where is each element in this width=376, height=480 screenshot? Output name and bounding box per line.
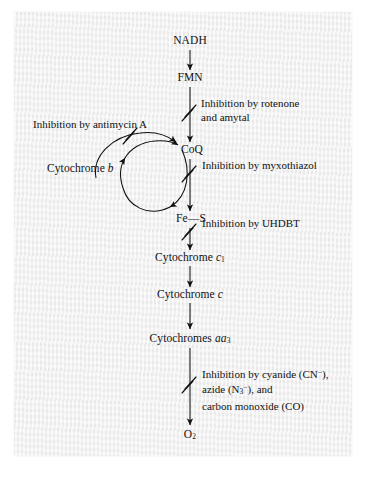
annotation-cyanide-line2: azide (N3−), and	[202, 381, 328, 399]
loop-arc-top-to-coq	[125, 141, 178, 158]
node-fmn-label: FMN	[177, 71, 202, 83]
node-cytochrome-c: Cytochrome c	[157, 288, 223, 300]
annotation-rotenone-line1: Inhibition by rotenone	[201, 96, 299, 110]
node-cytochrome-c1-word: Cytochrome	[155, 251, 213, 263]
mark-rotenone-icon	[182, 105, 196, 121]
node-cytochrome-c-italic: c	[218, 288, 223, 300]
node-cytochromes-aa3: Cytochromes aa3	[150, 332, 231, 345]
mark-uhdbt-icon	[182, 224, 196, 240]
annotation-rotenone-line2: and amytal	[201, 110, 299, 124]
mark-cyanide-icon	[182, 377, 196, 393]
annotation-cyanide-line1: Inhibition by cyanide (CN−),	[202, 366, 328, 381]
mark-myxothiazol-icon	[182, 166, 196, 182]
loop-arc-left-up	[121, 158, 125, 188]
node-nadh: NADH	[173, 34, 207, 46]
node-cytochrome-c1: Cytochrome c1	[155, 251, 225, 264]
node-cytochromes-aa3-sub: 3	[227, 336, 231, 345]
annotation-cyanide: Inhibition by cyanide (CN−), azide (N3−)…	[202, 366, 328, 413]
node-cytochrome-b: Cytochrome b	[47, 162, 114, 174]
node-nadh-label: NADH	[173, 34, 207, 46]
annotation-antimycin-line1: Inhibition by antimycin A	[33, 117, 147, 131]
node-fmn: FMN	[177, 71, 202, 83]
annotation-myxothiazol-line1: Inhibition by myxothiazol	[202, 158, 317, 172]
node-cytochrome-b-word: Cytochrome	[47, 162, 105, 174]
node-cytochrome-c-word: Cytochrome	[157, 288, 215, 300]
annotation-uhdbt-line1: Inhibition by UHDBT	[202, 216, 300, 230]
annotation-uhdbt: Inhibition by UHDBT	[202, 216, 300, 230]
node-coq: CoQ	[181, 143, 203, 155]
annotation-antimycin: Inhibition by antimycin A	[33, 117, 147, 131]
annotation-cyanide-line3: carbon monoxide (CO)	[202, 399, 328, 413]
node-o2-sub: 2	[192, 432, 196, 441]
node-cytochromes-aa3-italic: aa	[215, 332, 227, 344]
node-coq-label: CoQ	[181, 143, 203, 155]
annotation-rotenone: Inhibition by rotenone and amytal	[201, 96, 299, 124]
node-o2: O2	[184, 428, 196, 441]
annotation-myxothiazol: Inhibition by myxothiazol	[202, 158, 317, 172]
node-cytochrome-c1-sub: 1	[221, 255, 225, 264]
diagram-page: NADH FMN CoQ Cytochrome b Fe—S Cytochrom…	[0, 0, 376, 480]
node-cytochromes-aa3-word: Cytochromes	[150, 332, 212, 344]
node-cytochrome-b-italic: b	[108, 162, 114, 174]
loop-arc-bottom-left	[123, 188, 170, 211]
